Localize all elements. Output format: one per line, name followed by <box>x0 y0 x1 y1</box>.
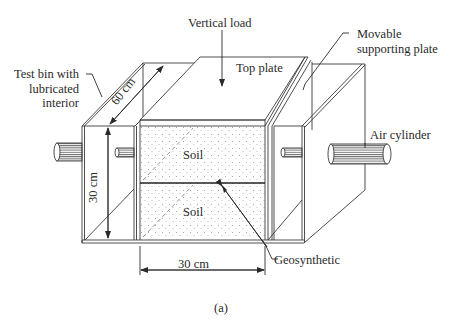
air-cylinder-label: Air cylinder <box>370 128 431 142</box>
left-cylinder-inner <box>115 148 134 157</box>
dim-30cm-width-label: 30 cm <box>178 257 209 271</box>
test-bin-label-1: Test bin with <box>14 67 79 81</box>
test-bin-label-3: interior <box>42 96 79 110</box>
vertical-load-label: Vertical load <box>188 16 252 30</box>
soil-lower-label: Soil <box>183 205 203 219</box>
test-bin-leader <box>86 74 102 97</box>
test-bin-label-2: lubricated <box>29 82 79 96</box>
soil-upper-label: Soil <box>183 148 203 162</box>
air-cylinder <box>328 144 391 164</box>
top-plate <box>140 57 311 126</box>
top-plate-label: Top plate <box>236 61 283 75</box>
base-plate <box>82 240 304 243</box>
dim-30cm-height-label: 30 cm <box>86 172 101 203</box>
geosynthetic-label: Geosynthetic <box>274 253 340 267</box>
right-cylinder-inner <box>281 148 302 157</box>
movable-plate-label-2: supporting plate <box>357 42 438 56</box>
left-cylinder-outer <box>54 143 82 161</box>
figure-caption: (a) <box>214 301 228 315</box>
movable-plate-label-1: Movable <box>357 27 401 41</box>
